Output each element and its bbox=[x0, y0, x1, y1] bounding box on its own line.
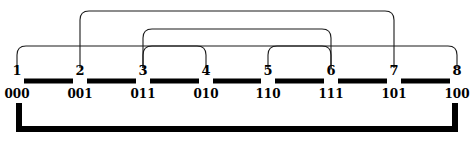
arc-layer bbox=[17, 11, 457, 68]
node-index-label-5: 5 bbox=[263, 64, 272, 77]
node-code-label-111: 111 bbox=[318, 88, 343, 100]
arc-5-6 bbox=[268, 46, 331, 68]
node-code-label-110: 110 bbox=[255, 88, 280, 100]
node-index-label-1: 1 bbox=[12, 64, 21, 77]
arc-2-7 bbox=[80, 11, 394, 68]
node-index-label-6: 6 bbox=[326, 64, 335, 77]
node-index-label-3: 3 bbox=[138, 64, 147, 77]
node-code-label-010: 010 bbox=[193, 88, 218, 100]
node-index-label-4: 4 bbox=[201, 64, 210, 77]
node-code-label-100: 100 bbox=[444, 88, 469, 100]
node-index-label-8: 8 bbox=[452, 64, 461, 77]
gray-code-arc-diagram: 10002001301140105110611171018100 bbox=[0, 0, 476, 142]
bottom-bracket bbox=[19, 103, 455, 129]
node-index-label-2: 2 bbox=[75, 64, 84, 77]
arc-3-4 bbox=[143, 46, 206, 68]
diagram-canvas bbox=[0, 0, 476, 142]
node-code-label-011: 011 bbox=[130, 88, 155, 100]
arc-3-6 bbox=[143, 29, 331, 68]
node-code-label-001: 001 bbox=[67, 88, 92, 100]
bottom-bracket-layer bbox=[19, 103, 455, 129]
node-code-label-101: 101 bbox=[381, 88, 406, 100]
node-index-label-7: 7 bbox=[389, 64, 398, 77]
node-code-label-000: 000 bbox=[4, 88, 29, 100]
